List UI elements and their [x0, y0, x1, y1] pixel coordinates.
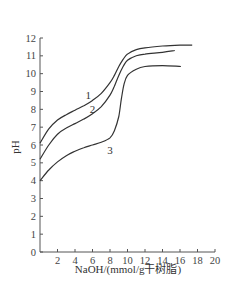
x-axis-label: NaOH/(mmol/g干树脂) — [75, 262, 182, 276]
y-tick-label: 9 — [31, 86, 36, 97]
y-tick-label: 6 — [31, 140, 36, 151]
y-axis-label: pH — [9, 140, 21, 154]
axis-lines — [40, 38, 215, 252]
x-tick-label: 20 — [210, 255, 221, 266]
y-tick-label: 5 — [31, 157, 36, 168]
y-tick-label: 7 — [31, 122, 36, 133]
y-tick-label: 3 — [31, 193, 36, 204]
y-tick-label: 0 — [31, 247, 36, 258]
curve-label-3: 3 — [107, 144, 113, 156]
y-tick-label: 10 — [26, 68, 37, 79]
axes — [40, 38, 215, 252]
y-tick-label: 8 — [31, 104, 36, 115]
curves — [40, 45, 192, 181]
y-tick-label: 12 — [26, 33, 37, 44]
curve-label-1: 1 — [85, 89, 91, 101]
y-tick-label: 4 — [31, 175, 37, 186]
x-tick-label: 2 — [55, 255, 60, 266]
curve-label-2: 2 — [90, 103, 96, 115]
y-tick-label: 2 — [31, 211, 36, 222]
curve-1 — [40, 45, 192, 143]
titration-chart: 0123456789101112 2468101214161820 123 pH… — [0, 0, 236, 291]
x-tick-label: 18 — [192, 255, 203, 266]
y-tick-label: 11 — [26, 50, 36, 61]
y-tick-label: 1 — [31, 229, 36, 240]
